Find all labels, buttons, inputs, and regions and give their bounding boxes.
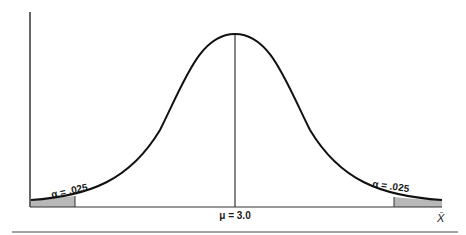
normal-curve [31, 34, 442, 200]
x-axis-label: X̄ [436, 212, 445, 224]
normal-curve-chart: α = .025 α = .025 μ = 3.0 X̄ [0, 0, 466, 235]
mean-label: μ = 3.0 [219, 210, 251, 221]
